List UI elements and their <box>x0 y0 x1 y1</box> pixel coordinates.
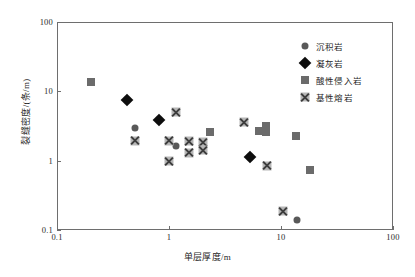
y-tick-1 <box>57 161 61 162</box>
data-point <box>279 207 288 216</box>
data-point <box>262 128 270 136</box>
data-point <box>184 148 193 157</box>
legend-item-3: 酸性侵入岩 <box>300 74 362 86</box>
x-tick-label-100: 100 <box>386 232 399 242</box>
data-point <box>165 136 174 145</box>
legend-symbol <box>302 43 309 50</box>
data-point <box>206 128 214 136</box>
data-point <box>184 137 193 146</box>
circle-marker-icon <box>300 41 310 51</box>
y-tick-label-0.1: 0.1 <box>42 225 53 235</box>
legend-label: 沉积岩 <box>316 40 344 52</box>
data-point <box>165 157 174 166</box>
legend-item-2: 凝灰岩 <box>300 57 362 69</box>
legend-symbol <box>301 93 310 102</box>
x-tick-100 <box>393 226 394 230</box>
data-point <box>171 108 180 117</box>
legend-label: 凝灰岩 <box>316 57 344 69</box>
data-point <box>292 132 300 140</box>
legend-symbol <box>299 57 312 70</box>
x-tick-10 <box>281 226 282 230</box>
legend-item-1: 沉积岩 <box>300 40 362 52</box>
legend-item-4: 基性熔岩 <box>300 91 362 103</box>
data-point <box>306 166 314 174</box>
scatter-chart-figure: 单层厚度/m 裂缝密度/(条/m) 沉积岩凝灰岩酸性侵入岩基性熔岩 0.1110… <box>0 0 415 277</box>
legend-label: 酸性侵入岩 <box>316 74 362 86</box>
data-point <box>240 118 249 127</box>
x-tick-label-0.1: 0.1 <box>51 232 62 242</box>
data-point <box>132 124 139 131</box>
y-tick-label-100: 100 <box>40 17 53 27</box>
y-axis-title: 裂缝密度/(条/m) <box>19 42 32 182</box>
chart-legend: 沉积岩凝灰岩酸性侵入岩基性熔岩 <box>300 40 362 103</box>
y-tick-10 <box>57 91 61 92</box>
y-tick-label-1: 1 <box>49 156 53 166</box>
data-point <box>131 136 140 145</box>
x-axis-title: 单层厚度/m <box>0 250 415 263</box>
data-point <box>198 146 207 155</box>
x-tick-label-1: 1 <box>167 232 171 242</box>
y-tick-0.1 <box>57 230 61 231</box>
x-square-marker-icon <box>300 92 310 102</box>
data-point <box>263 161 272 170</box>
x-tick-label-10: 10 <box>277 232 286 242</box>
y-tick-100 <box>57 22 61 23</box>
data-point <box>294 216 301 223</box>
data-point <box>87 78 95 86</box>
x-tick-1 <box>169 226 170 230</box>
y-tick-label-10: 10 <box>44 86 53 96</box>
legend-label: 基性熔岩 <box>316 91 353 103</box>
square-marker-icon <box>300 75 310 85</box>
diamond-marker-icon <box>300 58 310 68</box>
legend-symbol <box>301 76 309 84</box>
